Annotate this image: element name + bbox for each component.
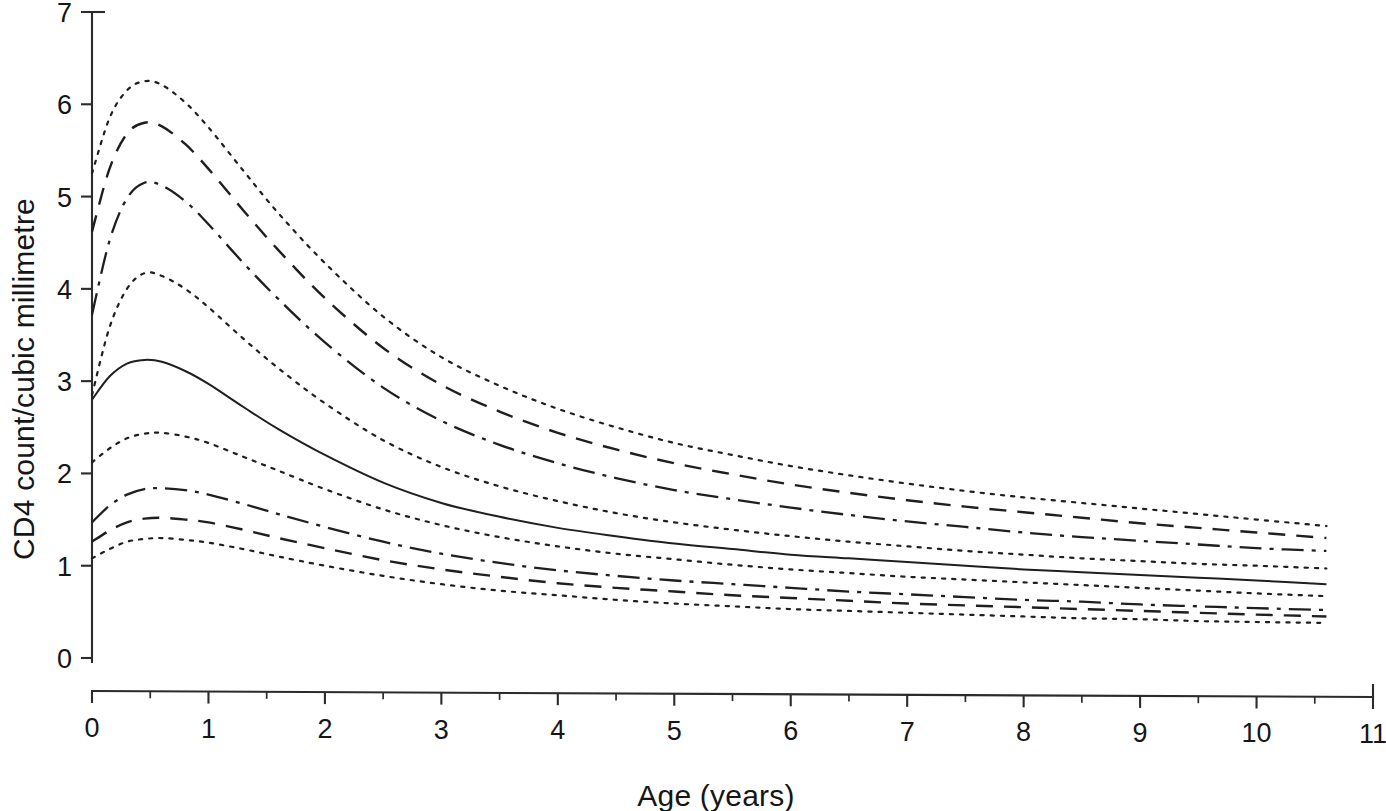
centile-curves — [92, 81, 1326, 623]
y-axis-tick-label: 5 — [57, 183, 72, 213]
y-axis-title: CD4 count/cubic millimetre — [7, 198, 40, 560]
y-axis-tick-label: 0 — [57, 644, 72, 674]
x-axis-tick-label: 0 — [84, 713, 99, 743]
y-axis-tick-label: 6 — [57, 90, 72, 120]
x-axis-tick-label: 4 — [550, 715, 565, 745]
chart-figure: CD4 count/cubic millimetre Age (years) 0… — [0, 0, 1386, 811]
x-axis-tick-label: 3 — [434, 715, 449, 745]
centile-curve-centile-90 — [92, 122, 1326, 538]
x-axis-tick-label: 10 — [1242, 718, 1272, 748]
x-axis-title: Age (years) — [637, 779, 794, 811]
x-axis-tick-label: 7 — [900, 717, 915, 747]
x-axis: 01234567891011 — [84, 684, 1386, 749]
y-axis-tick-label: 1 — [57, 552, 72, 582]
x-axis-tick-label: 2 — [317, 714, 332, 744]
y-axis-tick-label: 7 — [57, 0, 72, 28]
x-axis-tick-label: 9 — [1133, 718, 1148, 748]
centile-curve-median — [92, 360, 1326, 584]
cd4-centile-plot: CD4 count/cubic millimetre Age (years) 0… — [0, 0, 1386, 811]
y-axis-tick-label: 3 — [57, 367, 72, 397]
y-axis-tick-label: 2 — [57, 459, 72, 489]
centile-curve-centile-3 — [92, 538, 1326, 623]
x-axis-tick-label: 6 — [783, 716, 798, 746]
x-axis-tick-label: 1 — [201, 714, 216, 744]
centile-curve-centile-25 — [92, 488, 1326, 610]
y-axis-tick-label: 4 — [57, 275, 72, 305]
centile-curve-centile-10 — [92, 518, 1326, 617]
x-axis-tick-label: 5 — [667, 716, 682, 746]
centile-curve-centile-75 — [92, 182, 1326, 551]
x-axis-tick-label: 8 — [1016, 717, 1031, 747]
x-axis-tick-label: 11 — [1359, 719, 1386, 749]
centile-curve-centile-97 — [92, 81, 1326, 526]
y-axis: 01234567 — [57, 0, 105, 674]
